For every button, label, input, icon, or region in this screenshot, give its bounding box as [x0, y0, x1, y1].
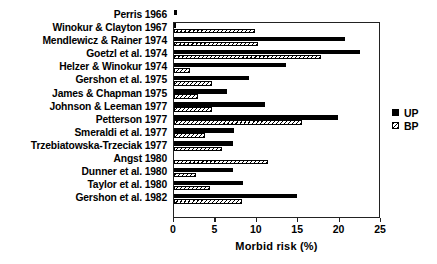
bar-up [174, 141, 233, 146]
bar-up [174, 76, 249, 81]
bar-bp [174, 55, 321, 60]
bar-up [174, 10, 177, 15]
category-label: Angst 1980 [0, 152, 170, 165]
bar-up [174, 181, 243, 186]
x-axis-title: Morbid risk (%) [173, 240, 380, 252]
x-tick [256, 218, 257, 222]
bar-row [174, 48, 379, 61]
category-label: James & Chapman 1975 [0, 87, 170, 100]
x-tick-label: 20 [333, 223, 345, 235]
bar-bp [174, 199, 242, 204]
bar-bp [174, 68, 190, 73]
x-tick [339, 218, 340, 222]
bar-up [174, 63, 286, 68]
bar-bp [174, 173, 196, 178]
bar-bp [174, 107, 212, 112]
bar-row [174, 74, 379, 87]
x-tick-label: 25 [374, 223, 386, 235]
morbid-risk-bar-chart: Perris 1966Winokur & Clayton 1967Mendlew… [0, 0, 437, 264]
x-tick-label: 5 [211, 223, 217, 235]
category-label: Winokur & Clayton 1967 [0, 21, 170, 34]
bar-up [174, 128, 234, 133]
bar-bp [174, 42, 258, 47]
bar-row [174, 166, 379, 179]
category-label: Perris 1966 [0, 8, 170, 21]
bar-row [174, 61, 379, 74]
category-label: Petterson 1977 [0, 113, 170, 126]
x-tick [297, 218, 298, 222]
bar-bp [174, 81, 212, 86]
bar-up [174, 115, 338, 120]
bar-row [174, 179, 379, 192]
category-label: Helzer & Winokur 1974 [0, 60, 170, 73]
bar-up [174, 50, 360, 55]
x-tick-label: 15 [291, 223, 303, 235]
bar-bp [174, 160, 268, 165]
x-tick-label: 10 [250, 223, 262, 235]
category-label: Smeraldi et al. 1977 [0, 126, 170, 139]
bar-up [174, 102, 265, 107]
bar-row [174, 140, 379, 153]
category-label: Taylor et al. 1980 [0, 178, 170, 191]
x-tick [214, 218, 215, 222]
bar-row [174, 114, 379, 127]
bar-up [174, 23, 176, 28]
category-label: Trzebiatowska-Trzeciak 1977 [0, 139, 170, 152]
legend-label-bp: BP [404, 120, 419, 132]
category-label: Johnson & Leeman 1977 [0, 100, 170, 113]
bar-rows [174, 9, 379, 219]
x-axis: 0510152025 [173, 218, 380, 219]
legend-label-up: UP [404, 107, 419, 119]
bar-row [174, 192, 379, 205]
bar-row [174, 22, 379, 35]
bar-row [174, 9, 379, 22]
category-label: Gershon et al. 1982 [0, 191, 170, 204]
legend: UP BP [392, 106, 419, 132]
solid-black-square-icon [392, 109, 399, 116]
bar-bp [174, 29, 255, 34]
bar-bp [174, 147, 222, 152]
bar-up [174, 194, 297, 199]
bar-up [174, 37, 345, 42]
x-tick [173, 218, 174, 222]
category-label: Gershon et al. 1975 [0, 73, 170, 86]
hatched-square-icon [392, 122, 399, 129]
bar-bp [174, 120, 302, 125]
category-label: Mendlewicz & Rainer 1974 [0, 34, 170, 47]
plot-area [173, 22, 380, 218]
category-label-column: Perris 1966Winokur & Clayton 1967Mendlew… [0, 8, 170, 204]
bar-row [174, 127, 379, 140]
category-label: Goetzl et al. 1974 [0, 47, 170, 60]
bar-bp [174, 186, 210, 191]
x-tick [380, 218, 381, 222]
bar-bp [174, 94, 198, 99]
bar-row [174, 88, 379, 101]
bar-bp [174, 133, 205, 138]
bar-row [174, 101, 379, 114]
legend-item-bp: BP [392, 119, 419, 132]
category-label: Dunner et al. 1980 [0, 165, 170, 178]
bar-row [174, 153, 379, 166]
bar-row [174, 35, 379, 48]
bar-up [174, 89, 227, 94]
legend-item-up: UP [392, 106, 419, 119]
x-tick-label: 0 [170, 223, 176, 235]
bar-up [174, 168, 233, 173]
